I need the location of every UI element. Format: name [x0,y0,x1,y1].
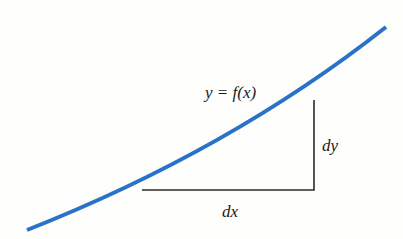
dx-dy-triangle [142,100,314,190]
curve-label-text: y = f(x) [205,83,256,102]
function-curve [27,27,386,230]
dy-label: dy [322,137,338,154]
curve-label: y = f(x) [205,84,256,101]
differential-diagram [0,0,403,239]
dx-label: dx [222,203,238,220]
